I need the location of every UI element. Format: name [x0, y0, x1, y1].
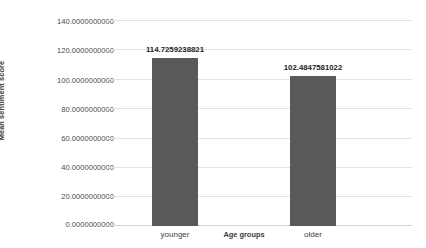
y-tick-label-120: 120.0000000000: [28, 46, 114, 55]
y-tick-label-40: 40.0000000000: [28, 163, 114, 172]
y-tick-label-140: 140.0000000000: [28, 17, 114, 26]
data-label-younger: 114.7259238821: [125, 45, 225, 54]
y-tick-label-0: 0.0000000000: [28, 220, 114, 229]
y-tick-label-80: 80.0000000000: [28, 105, 114, 114]
y-tick-label-20: 20.0000000000: [28, 192, 114, 201]
bar-older[interactable]: [290, 76, 336, 226]
y-tick-label-60: 60.0000000000: [28, 134, 114, 143]
bar-chart: Mean sentiment score 140.0000000000 120.…: [0, 0, 426, 248]
x-axis-title: Age groups: [194, 230, 294, 239]
plot-area: 114.7259238821 102.4847581022 younger ol…: [108, 20, 412, 226]
data-label-older: 102.4847581022: [263, 63, 363, 72]
y-axis-title: Mean sentiment score: [0, 8, 6, 194]
bar-younger[interactable]: [152, 58, 198, 226]
gridline-140: [108, 20, 412, 21]
y-tick-label-100: 100.0000000000: [28, 76, 114, 85]
